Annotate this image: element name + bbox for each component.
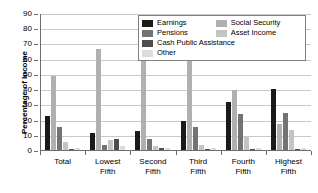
y-axis-tick-mark (34, 105, 38, 106)
y-axis-tick-label: 90 (23, 10, 32, 18)
legend-label: Pensions (157, 29, 188, 37)
bar-chart: Percentage of Income 9080706050403020100… (0, 0, 318, 193)
x-axis-tick-label-line: Total (40, 157, 85, 167)
legend-item: Other (142, 48, 302, 58)
y-axis-tick-mark (34, 75, 38, 76)
legend-swatch (142, 50, 153, 57)
x-axis-tick-label-line: Fifth (176, 167, 221, 177)
legend-swatch (216, 30, 227, 37)
legend-item: Asset Income (216, 28, 302, 38)
y-axis-tick-label: 80 (23, 25, 32, 33)
x-axis-tick-mark (85, 151, 86, 155)
x-axis-tick-label: FourthFifth (221, 157, 266, 177)
y-axis-tick-label: 10 (23, 132, 32, 140)
x-axis-tick-mark (266, 151, 267, 155)
y-axis-tick-label: 70 (23, 40, 32, 48)
y-axis-tick-mark (34, 151, 38, 152)
y-axis-tick-mark (34, 136, 38, 137)
x-axis-tick-label-line: Lowest (85, 157, 130, 167)
legend-swatch (216, 20, 227, 27)
legend-label: Asset Income (231, 29, 276, 37)
x-axis-tick-label: LowestFifth (85, 157, 130, 177)
y-axis-tick-mark (34, 44, 38, 45)
legend-swatch (142, 40, 153, 47)
y-axis-tick-label: 50 (23, 71, 32, 79)
y-axis-tick-label: 20 (23, 117, 32, 125)
legend-item: Social Security (216, 18, 302, 28)
legend: EarningsSocial SecurityPensionsAsset Inc… (138, 15, 306, 61)
y-axis-tick-label: 30 (23, 101, 32, 109)
y-axis-tick-mark (34, 14, 38, 15)
x-axis-tick-label-line: Fifth (130, 167, 175, 177)
y-axis-tick-label: 0 (28, 147, 32, 155)
x-axis-ticks (40, 151, 311, 155)
x-axis-tick-mark (176, 151, 177, 155)
x-axis-tick-label-line: Second (130, 157, 175, 167)
legend-label: Social Security (231, 19, 281, 27)
x-axis-tick-label-line: Fifth (221, 167, 266, 177)
x-axis-tick-label-line: Fifth (266, 167, 311, 177)
x-axis-tick-label-line: Fifth (85, 167, 130, 177)
x-axis-tick-mark (311, 151, 312, 155)
legend-label: Other (157, 49, 176, 57)
y-axis-tick-label: 60 (23, 56, 32, 64)
x-axis-tick-label: ThirdFifth (176, 157, 221, 177)
x-axis-tick-label: Total (40, 157, 85, 177)
y-axis-tick-mark (34, 29, 38, 30)
x-axis-tick-mark (221, 151, 222, 155)
legend-item: Pensions (142, 28, 210, 38)
x-axis-tick-mark (130, 151, 131, 155)
legend-swatch (142, 20, 153, 27)
y-axis-tick-labels: 9080706050403020100 (0, 14, 38, 151)
legend-grid: EarningsSocial SecurityPensionsAsset Inc… (142, 18, 302, 58)
y-axis-tick-mark (34, 121, 38, 122)
x-axis-tick-label-line: Third (176, 157, 221, 167)
y-axis-tick-mark (34, 60, 38, 61)
legend-item: Cash Public Assistance (142, 38, 302, 48)
x-axis-tick-mark (40, 151, 41, 155)
y-axis-tick-mark (34, 90, 38, 91)
y-axis-tick-label: 40 (23, 86, 32, 94)
x-axis-tick-label-line: Highest (266, 157, 311, 167)
legend-label: Earnings (157, 19, 187, 27)
legend-item: Earnings (142, 18, 210, 28)
x-axis-tick-label-line: Fourth (221, 157, 266, 167)
legend-label: Cash Public Assistance (157, 39, 235, 47)
x-axis-tick-label: SecondFifth (130, 157, 175, 177)
x-axis-tick-labels: TotalLowestFifthSecondFifthThirdFifthFou… (40, 157, 311, 177)
x-axis-tick-label: HighestFifth (266, 157, 311, 177)
legend-swatch (142, 30, 153, 37)
